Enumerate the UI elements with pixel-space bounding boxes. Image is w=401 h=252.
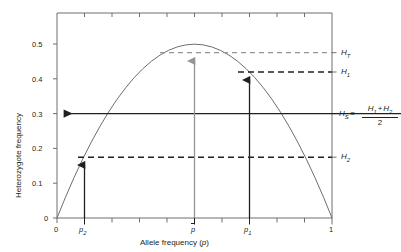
y-tick-label-0.3: 0.3	[32, 110, 42, 119]
x-axis-title-prefix: Allele frequency (	[140, 238, 202, 247]
x-axis-ticks	[57, 218, 332, 225]
vertical-guides	[195, 60, 250, 218]
label-H2: H2	[341, 152, 350, 163]
chart-canvas	[0, 0, 401, 252]
x-tick-label-p1: p1	[244, 225, 251, 236]
num-H1-subscript: 1	[373, 109, 376, 115]
figure-container: 0.5 0.4 0.3 0.2 0.1 0 Heterozygote frequ…	[0, 0, 401, 252]
y-tick-label-0.2: 0.2	[32, 144, 42, 153]
label-H1: H1	[341, 67, 350, 78]
y-axis-ticks	[53, 44, 57, 218]
HS-subscript: S	[345, 114, 349, 120]
HT-subscript: T	[347, 53, 351, 59]
right-axis-ticks	[332, 53, 337, 158]
p1-subscript: 1	[248, 230, 251, 236]
label-HS: HS=	[339, 109, 355, 120]
HS-fraction-numerator: H1+H2	[362, 104, 398, 117]
num-H2-subscript: 2	[389, 109, 392, 115]
y-tick-label-0.4: 0.4	[32, 75, 42, 84]
label-HT: HT	[341, 48, 350, 59]
x-tick-label-0: 0	[54, 225, 58, 234]
x-tick-label-p2: p2	[79, 225, 86, 236]
H2-subscript: 2	[347, 157, 350, 163]
HS-fraction: H1+H2 2	[362, 104, 398, 127]
x-axis-ticks-top	[85, 13, 305, 17]
HS-equals: =	[350, 109, 355, 118]
p2-subscript: 2	[83, 230, 86, 236]
x-tick-label-pbar: p	[191, 225, 195, 234]
y-tick-label-0.5: 0.5	[32, 40, 42, 49]
y-axis-title: Heterozygote frequency	[14, 113, 23, 198]
x-tick-label-1: 1	[329, 225, 333, 234]
y-tick-label-0.1: 0.1	[32, 179, 42, 188]
num-plus: +	[378, 104, 383, 113]
x-axis-title-suffix: )	[206, 238, 209, 247]
y-tick-label-0: 0	[44, 214, 48, 223]
HS-fraction-denominator: 2	[362, 117, 398, 127]
pbar-base: p	[191, 225, 195, 234]
H1-subscript: 1	[347, 72, 350, 78]
x-axis-title: Allele frequency (p)	[140, 238, 209, 247]
